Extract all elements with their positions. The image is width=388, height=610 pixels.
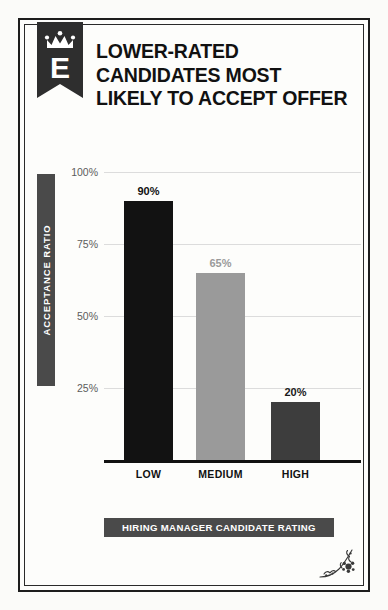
bar-low[interactable]: 90% bbox=[124, 201, 173, 460]
category-label-low: LOW bbox=[124, 468, 173, 480]
category-label-medium: MEDIUM bbox=[188, 468, 253, 480]
poster-frame-outer: E LOWER-RATED CANDIDATES MOST LIKELY TO … bbox=[18, 18, 370, 592]
category-label-high: HIGH bbox=[271, 468, 320, 480]
ribbon-banner-icon: E bbox=[37, 22, 83, 114]
title-line-3: LIKELY TO ACCEPT OFFER bbox=[96, 87, 352, 111]
floral-flourish-icon bbox=[318, 544, 362, 584]
x-axis-baseline bbox=[104, 460, 361, 463]
title-line-1: LOWER-RATED bbox=[96, 40, 352, 64]
x-axis-title: HIRING MANAGER CANDIDATE RATING bbox=[122, 522, 316, 533]
title-line-2: CANDIDATES MOST bbox=[96, 64, 352, 88]
bar-value-label-low: 90% bbox=[137, 185, 159, 197]
page-title: LOWER-RATED CANDIDATES MOST LIKELY TO AC… bbox=[96, 40, 352, 111]
brand-letter: E bbox=[50, 51, 70, 84]
infographic-poster: E LOWER-RATED CANDIDATES MOST LIKELY TO … bbox=[0, 0, 388, 610]
bar-high[interactable]: 20% bbox=[271, 402, 320, 460]
plot-area: 100% 75% 50% 25% 90% 65% 20% LOW MEDIUM … bbox=[78, 172, 361, 460]
poster-header: E LOWER-RATED CANDIDATES MOST LIKELY TO … bbox=[20, 20, 368, 150]
y-tick-label-25: 25% bbox=[44, 382, 98, 394]
y-tick-label-50: 50% bbox=[44, 310, 98, 322]
gridline-100 bbox=[104, 172, 361, 173]
brand-ribbon-logo: E bbox=[37, 22, 83, 114]
x-axis-title-bar: HIRING MANAGER CANDIDATE RATING bbox=[104, 518, 334, 537]
bar-chart: ACCEPTANCE RATIO 100% 75% 50% 25% 90% 65… bbox=[20, 146, 368, 546]
y-axis-title-bar: ACCEPTANCE RATIO bbox=[37, 174, 55, 386]
bar-medium[interactable]: 65% bbox=[196, 273, 245, 460]
y-tick-label-100: 100% bbox=[44, 166, 98, 178]
corner-flourish-ornament bbox=[318, 544, 362, 584]
bar-value-label-medium: 65% bbox=[209, 257, 231, 269]
y-tick-label-75: 75% bbox=[44, 238, 98, 250]
bar-value-label-high: 20% bbox=[284, 386, 306, 398]
